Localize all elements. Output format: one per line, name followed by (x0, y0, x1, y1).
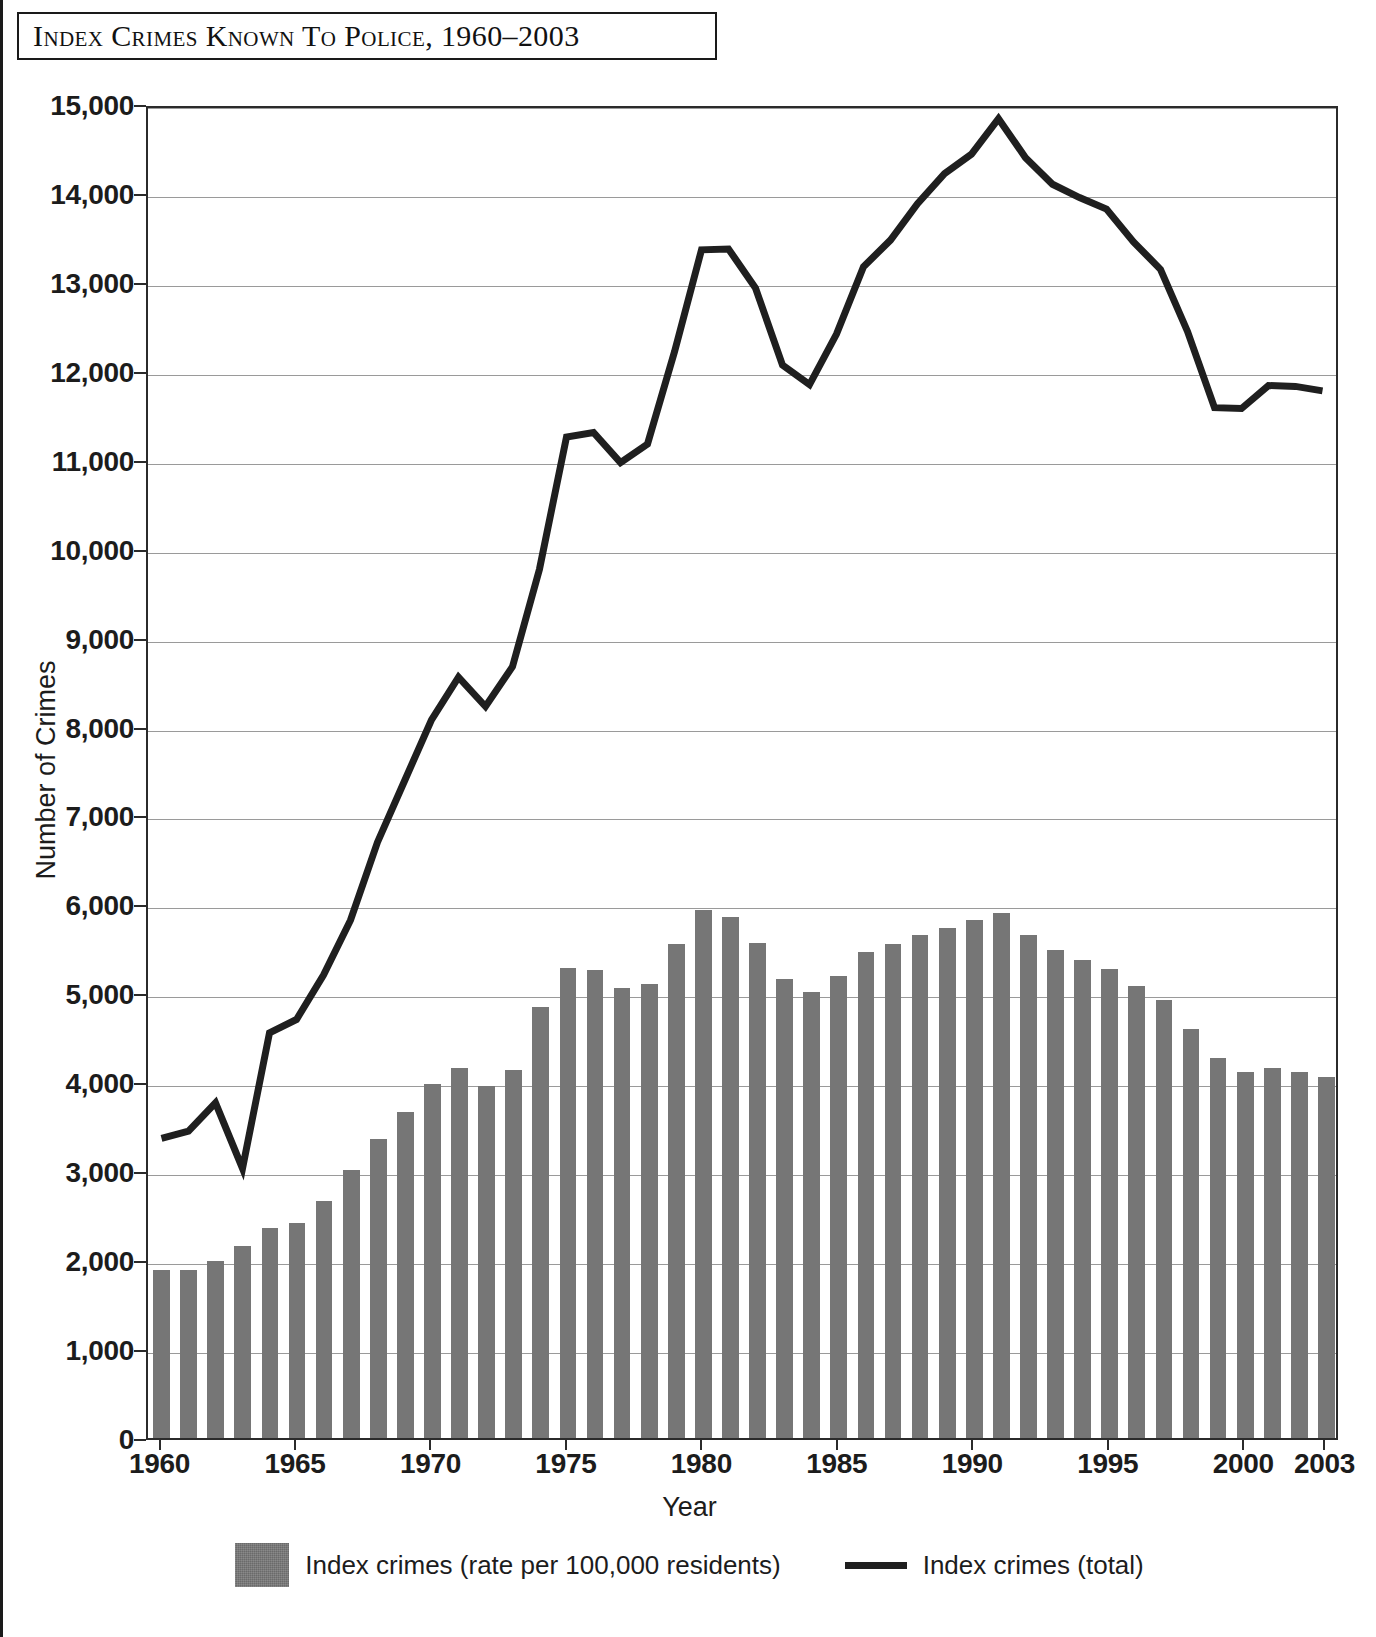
plot-area (146, 106, 1338, 1440)
bar (1047, 950, 1064, 1438)
x-tick-label: 1960 (129, 1448, 190, 1480)
y-tick-label: 13,000 (16, 268, 134, 300)
bar (939, 928, 956, 1438)
y-tick-label: 1,000 (16, 1335, 134, 1367)
bar (1074, 960, 1091, 1438)
y-tick-mark (134, 1261, 146, 1263)
gridline (148, 464, 1336, 465)
bar (885, 944, 902, 1438)
legend-label-line: Index crimes (total) (923, 1550, 1144, 1581)
y-tick-label: 0 (16, 1424, 134, 1456)
chart-legend: Index crimes (rate per 100,000 residents… (3, 1543, 1376, 1587)
bar (234, 1246, 251, 1438)
gridline (148, 197, 1336, 198)
x-tick-label: 2003 (1294, 1448, 1355, 1480)
bar (180, 1270, 197, 1438)
x-tick-label: 2000 (1213, 1448, 1274, 1480)
bar (912, 935, 929, 1438)
gridline (148, 819, 1336, 820)
x-tick-mark (1323, 1440, 1325, 1450)
x-tick-mark (565, 1440, 567, 1450)
bar (532, 1007, 549, 1438)
bar (858, 952, 875, 1438)
bar (262, 1228, 279, 1438)
gridline (148, 286, 1336, 287)
x-tick-label: 1965 (264, 1448, 325, 1480)
legend-label-bar: Index crimes (rate per 100,000 residents… (305, 1550, 780, 1581)
gridline (148, 375, 1336, 376)
bar (587, 970, 604, 1438)
gridline (148, 553, 1336, 554)
bar (776, 979, 793, 1438)
y-tick-label: 12,000 (16, 357, 134, 389)
x-tick-mark (971, 1440, 973, 1450)
figure-container: Index Crimes Known to Police, 1960–2003 … (0, 0, 1376, 1637)
bar (668, 944, 685, 1438)
bar (614, 988, 631, 1438)
gridline (148, 731, 1336, 732)
y-tick-mark (134, 639, 146, 641)
bar (207, 1261, 224, 1438)
bar (153, 1270, 170, 1438)
plot-inner (148, 108, 1336, 1438)
y-tick-label: 14,000 (16, 179, 134, 211)
x-tick-label: 1995 (1077, 1448, 1138, 1480)
y-tick-mark (134, 1172, 146, 1174)
legend-item-line: Index crimes (total) (845, 1550, 1144, 1581)
bar (1101, 969, 1118, 1438)
bar (1291, 1072, 1308, 1438)
y-tick-mark (134, 550, 146, 552)
bar (505, 1070, 522, 1438)
bar (451, 1068, 468, 1438)
bar (695, 910, 712, 1438)
bar (966, 920, 983, 1438)
y-tick-mark (134, 283, 146, 285)
x-tick-mark (836, 1440, 838, 1450)
y-tick-label: 6,000 (16, 890, 134, 922)
bar (424, 1084, 441, 1438)
legend-bar-swatch-icon (235, 1543, 289, 1587)
y-tick-mark (134, 994, 146, 996)
y-tick-mark (134, 905, 146, 907)
bar (1318, 1077, 1335, 1438)
x-tick-label: 1970 (400, 1448, 461, 1480)
bar (1237, 1072, 1254, 1438)
y-tick-mark (134, 816, 146, 818)
x-tick-mark (700, 1440, 702, 1450)
x-tick-label: 1990 (942, 1448, 1003, 1480)
bar (343, 1170, 360, 1438)
bar (830, 976, 847, 1438)
y-tick-mark (134, 461, 146, 463)
y-tick-label: 3,000 (16, 1157, 134, 1189)
bar (1183, 1029, 1200, 1438)
bar (803, 992, 820, 1438)
gridline (148, 108, 1336, 109)
gridline (148, 642, 1336, 643)
x-tick-label: 1975 (535, 1448, 596, 1480)
bar (397, 1112, 414, 1438)
bar (641, 984, 658, 1438)
bar (1156, 1000, 1173, 1438)
y-tick-mark (134, 105, 146, 107)
bar (478, 1086, 495, 1438)
bar (560, 968, 577, 1438)
x-tick-mark (159, 1440, 161, 1450)
y-tick-mark (134, 1439, 146, 1441)
y-tick-mark (134, 372, 146, 374)
y-tick-label: 10,000 (16, 535, 134, 567)
y-tick-mark (134, 1350, 146, 1352)
gridline (148, 997, 1336, 998)
x-tick-mark (1107, 1440, 1109, 1450)
bar (1128, 986, 1145, 1438)
x-tick-label: 1985 (806, 1448, 867, 1480)
x-tick-mark (1242, 1440, 1244, 1450)
x-axis-title: Year (3, 1492, 1376, 1523)
y-axis-title: Number of Crimes (31, 660, 62, 879)
y-tick-mark (134, 1083, 146, 1085)
y-tick-label: 5,000 (16, 979, 134, 1011)
bar (370, 1139, 387, 1438)
bar (316, 1201, 333, 1438)
y-tick-label: 2,000 (16, 1246, 134, 1278)
y-tick-label: 11,000 (16, 446, 134, 478)
bar (1210, 1058, 1227, 1438)
